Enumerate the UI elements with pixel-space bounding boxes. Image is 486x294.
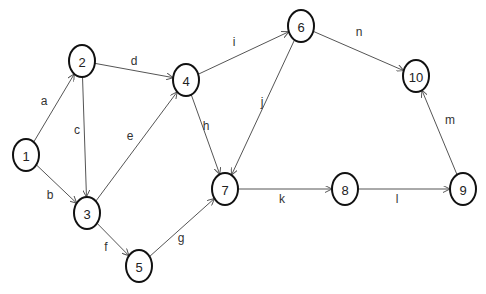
node-label: 5 <box>135 260 142 275</box>
edge-f <box>97 223 129 256</box>
node-label: 7 <box>221 183 228 198</box>
node-10: 10 <box>403 60 429 92</box>
edge-label-j: j <box>260 95 264 109</box>
network-diagram: abcdefghijklmn 12345678910 <box>0 0 486 294</box>
edge-label-f: f <box>104 240 108 254</box>
edge-h <box>191 95 220 175</box>
edge-i <box>198 32 289 75</box>
node-label: 1 <box>22 149 29 164</box>
edge-label-b: b <box>47 188 54 202</box>
edge-label-l: l <box>396 192 399 206</box>
edge-label-k: k <box>279 192 286 206</box>
edge-label-i: i <box>233 35 236 49</box>
edge-label-g: g <box>178 231 185 245</box>
edge-label-d: d <box>131 54 138 68</box>
edge-label-h: h <box>203 119 210 133</box>
node-label: 4 <box>182 74 189 89</box>
node-5: 5 <box>126 250 152 282</box>
edge-m <box>422 90 457 175</box>
node-label: 2 <box>78 55 85 70</box>
edge-label-m: m <box>445 113 455 127</box>
edge-label-e: e <box>127 129 134 143</box>
edge-b <box>36 165 76 203</box>
edge-label-n: n <box>356 25 363 39</box>
edge-label-c: c <box>74 123 80 137</box>
node-1: 1 <box>13 139 39 171</box>
node-9: 9 <box>450 173 476 205</box>
edge-g <box>150 198 215 256</box>
edge-a <box>34 74 75 142</box>
node-2: 2 <box>69 45 95 77</box>
node-label: 6 <box>297 20 304 35</box>
node-8: 8 <box>332 173 358 205</box>
node-3: 3 <box>74 197 100 229</box>
edge-e <box>96 92 177 201</box>
node-7: 7 <box>212 173 238 205</box>
node-6: 6 <box>288 10 314 42</box>
node-label: 10 <box>409 70 423 85</box>
node-4: 4 <box>173 64 199 96</box>
node-label: 3 <box>83 207 90 222</box>
edge-label-a: a <box>41 94 48 108</box>
node-label: 9 <box>459 183 466 198</box>
edge-c <box>83 77 87 197</box>
node-label: 8 <box>341 183 348 198</box>
